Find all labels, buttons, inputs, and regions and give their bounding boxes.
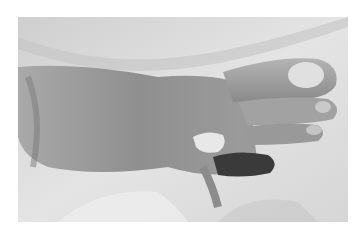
photo-canvas bbox=[18, 17, 348, 222]
toenail bbox=[288, 62, 324, 88]
toenail bbox=[306, 125, 322, 135]
dark-toe-lesion bbox=[213, 152, 275, 176]
foot-photograph bbox=[18, 17, 348, 222]
toenail bbox=[315, 101, 331, 113]
